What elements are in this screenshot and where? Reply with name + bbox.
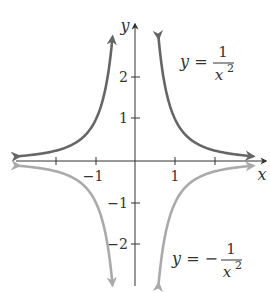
x-tick-label-pos1: 1 <box>171 168 180 184</box>
label-positive-exp: 2 <box>227 62 234 75</box>
y-tick-label-neg1: −1 <box>107 195 128 211</box>
label-negative: y = − 1 x 2 <box>171 240 242 281</box>
y-axis-label: y <box>119 16 130 35</box>
label-positive-num: 1 <box>218 43 228 61</box>
label-positive-den: x <box>215 66 224 84</box>
y-axis: 2 1 −1 −2 y <box>107 16 140 286</box>
label-negative-den: x <box>223 263 232 281</box>
curve-positive-left <box>18 38 112 157</box>
y-tick-label-2: 2 <box>119 69 128 85</box>
y-tick-label-neg2: −2 <box>107 236 128 252</box>
label-positive: y = 1 x 2 <box>179 43 234 84</box>
label-negative-exp: 2 <box>235 259 242 272</box>
label-positive-lhs: y = <box>179 52 208 71</box>
label-negative-lhs: y = − <box>171 249 218 268</box>
label-negative-num: 1 <box>226 240 236 258</box>
x-tick-label-neg1: −1 <box>83 168 104 184</box>
y-tick-label-1: 1 <box>119 110 128 126</box>
chart: −1 1 x 2 1 −1 −2 y y = 1 x 2 y = − 1 <box>0 0 270 293</box>
svg-text:y =: y = <box>179 52 208 71</box>
x-axis-label: x <box>257 165 266 184</box>
